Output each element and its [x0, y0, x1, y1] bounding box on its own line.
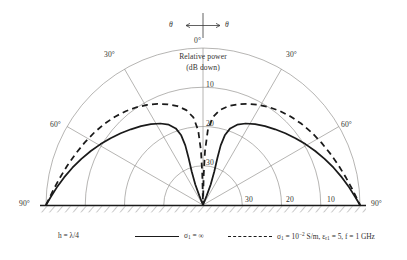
- radial-axis-title-line1: Relative power: [156, 52, 250, 61]
- polar-plot-canvas: [0, 0, 407, 260]
- angle-label-60-right: 60°: [341, 120, 352, 129]
- angle-label-90-left: 90°: [19, 199, 30, 208]
- angle-label-60-left: 60°: [50, 120, 61, 129]
- ground-line: [40, 206, 366, 213]
- legend-dashed-eq1: = 10: [284, 232, 299, 241]
- radial-axis-title-line2: (dB down): [156, 63, 250, 72]
- antenna-pattern-figure: θ θ 0° Relative power (dB down) 10 20 30…: [0, 0, 407, 260]
- legend-dashed-label: σ1 = 10−2 S/m, εr1 = 5, f = 1 GHz: [277, 231, 375, 241]
- theta-label-left: θ: [169, 20, 173, 29]
- radial-tick-20: 20: [206, 119, 214, 128]
- legend-height-label: h = λ/4: [58, 231, 79, 240]
- legend-dashed-swatch: [228, 236, 272, 237]
- angle-label-90-right: 90°: [371, 199, 382, 208]
- radial-tick-30: 30: [206, 158, 214, 167]
- theta-label-right: θ: [225, 20, 229, 29]
- legend-dashed-eq2: S/m,: [305, 232, 322, 241]
- radial-tick-horizontal-30: 30: [245, 195, 253, 204]
- angle-label-0: 0°: [194, 36, 201, 45]
- legend-dashed-eq3: = 5,: [330, 232, 345, 241]
- legend-solid-label: σ1 = ∞: [184, 231, 204, 240]
- radial-tick-horizontal-20: 20: [286, 195, 294, 204]
- legend-solid-swatch: [135, 236, 179, 237]
- radial-tick-10: 10: [206, 80, 214, 89]
- legend-dashed-eq4: = 1 GHz: [348, 232, 375, 241]
- radial-tick-horizontal-10: 10: [327, 195, 335, 204]
- angle-label-30-right: 30°: [286, 50, 297, 59]
- theta-arrow-indicator: [186, 13, 220, 38]
- legend-solid-eq: = ∞: [191, 231, 204, 240]
- angle-label-30-left: 30°: [104, 50, 115, 59]
